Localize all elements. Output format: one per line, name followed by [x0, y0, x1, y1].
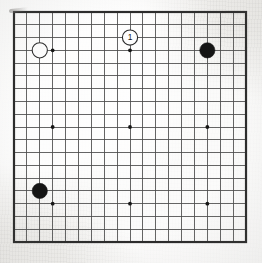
star-point [51, 48, 55, 52]
goban-svg[interactable]: 1 [0, 0, 262, 263]
star-point [205, 125, 209, 129]
black-stone[interactable] [32, 183, 47, 198]
star-point [128, 202, 132, 206]
star-point [51, 202, 55, 206]
move-number-label: 1 [128, 32, 133, 42]
star-point [51, 125, 55, 129]
white-stone[interactable] [32, 43, 47, 58]
go-board-diagram[interactable]: 1 [0, 0, 262, 263]
black-stone[interactable] [200, 43, 215, 58]
move-labels-layer: 1 [128, 32, 133, 42]
star-point [128, 125, 132, 129]
star-point [205, 202, 209, 206]
star-point [128, 48, 132, 52]
